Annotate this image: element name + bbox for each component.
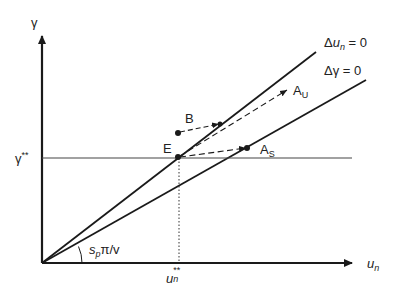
angle-arc xyxy=(79,247,83,264)
point-B xyxy=(175,130,181,136)
delta-un-suffix: = 0 xyxy=(345,35,367,50)
point-B-label: B xyxy=(185,112,194,125)
un-star-label: u**n xyxy=(166,272,183,285)
y-axis-label: γ xyxy=(31,16,38,29)
delta-gamma-zero-label: Δγ = 0 xyxy=(324,64,361,77)
point-E xyxy=(175,154,181,160)
point-E-label: E xyxy=(163,142,172,155)
delta-gamma-zero-line xyxy=(42,80,366,263)
x-axis-label: un xyxy=(367,257,379,273)
gamma-star-label: γ** xyxy=(15,151,29,165)
AS-sub: S xyxy=(269,149,275,159)
point-AS xyxy=(244,145,250,151)
point-B-end xyxy=(218,122,223,127)
un-star-base: u xyxy=(166,271,173,286)
x-axis-label-sub: n xyxy=(374,263,379,273)
AU-base: A xyxy=(293,83,302,98)
delta-symbol: Δ xyxy=(324,35,333,50)
AU-sub: U xyxy=(302,90,309,100)
point-AS-label: AS xyxy=(260,143,275,159)
AS-base: A xyxy=(260,142,269,157)
angle-label: spπ/v xyxy=(89,243,120,259)
gamma-star-sup: ** xyxy=(22,150,29,160)
point-AU-label: AU xyxy=(293,84,308,100)
delta-un-var: u xyxy=(333,35,340,50)
un-star-sub: n xyxy=(173,275,178,284)
angle-rest: π/v xyxy=(101,242,120,257)
delta-un-zero-label: Δun = 0 xyxy=(324,36,367,52)
